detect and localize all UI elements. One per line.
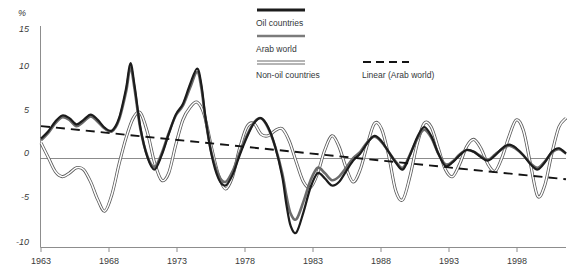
chart-figure: % 15 10 5 0 -5 -10 1963 1968 1973 1978 1… bbox=[0, 0, 572, 280]
x-axis-ticks bbox=[41, 248, 517, 253]
legend-swatch-non-oil-countries bbox=[257, 61, 305, 64]
chart-plot-area bbox=[0, 0, 572, 280]
series-line-oil-countries bbox=[41, 63, 566, 233]
legend-swatches bbox=[257, 10, 409, 64]
series-line-arab-world bbox=[41, 68, 566, 220]
trendline-linear-arab-world bbox=[41, 126, 566, 179]
